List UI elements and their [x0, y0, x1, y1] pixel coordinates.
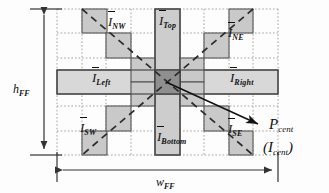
overbar-icon — [159, 10, 166, 11]
label-p-cent: Pcent — [269, 115, 293, 134]
label-i-top: ITop — [159, 12, 176, 30]
block-ne-2 — [204, 33, 229, 58]
label-w-ff-sub: FF — [164, 182, 175, 191]
block-sw-2 — [106, 106, 131, 131]
label-i-se: ISE — [228, 120, 243, 138]
label-i-bottom-symbol: I — [157, 129, 161, 144]
label-i-left-sub: Left — [96, 78, 110, 87]
overbar-icon — [108, 11, 115, 12]
label-i-se-symbol: I — [228, 121, 232, 136]
label-i-left: ILeft — [92, 69, 110, 87]
label-i-ne-symbol: I — [228, 25, 232, 40]
label-i-se-sub: SE — [232, 129, 242, 138]
label-i-bottom-sub: Bottom — [161, 137, 186, 146]
overbar-icon — [92, 67, 99, 68]
block-nw-2 — [106, 33, 131, 58]
label-i-ne: INE — [228, 24, 244, 42]
overbar-icon — [80, 117, 87, 118]
overbar-icon — [228, 22, 235, 23]
overbar-icon — [228, 118, 235, 119]
label-i-right-sub: Right — [234, 78, 253, 87]
label-w-ff-symbol: w — [156, 175, 164, 189]
label-i-ne-sub: NE — [232, 33, 244, 42]
label-h-ff: hFF — [13, 79, 30, 98]
label-i-nw-sub: NW — [112, 22, 125, 31]
label-h-ff-sub: FF — [19, 89, 30, 98]
overbar-icon — [230, 67, 237, 68]
diagram-root: INW INE ITop ILeft IRight ISW IBottom IS… — [0, 0, 329, 193]
label-p-cent-sub: cent — [278, 124, 293, 134]
label-i-sw-sub: SW — [84, 128, 96, 137]
label-i-top-symbol: I — [159, 13, 163, 28]
label-i-cent: (Icent) — [263, 138, 293, 157]
label-i-sw: ISW — [80, 119, 96, 137]
label-p-cent-symbol: P — [269, 116, 278, 132]
label-i-bottom: IBottom — [157, 128, 187, 146]
label-i-sw-symbol: I — [80, 120, 84, 135]
label-i-right-symbol: I — [230, 70, 234, 85]
label-i-cent-close: ) — [288, 139, 293, 155]
overbar-icon — [157, 126, 164, 127]
label-i-right: IRight — [230, 69, 254, 87]
label-i-nw: INW — [108, 13, 126, 31]
label-i-cent-sub: cent — [273, 147, 288, 157]
label-i-left-symbol: I — [92, 70, 96, 85]
label-i-top-sub: Top — [163, 21, 176, 30]
label-i-nw-symbol: I — [108, 14, 112, 29]
label-w-ff: wFF — [156, 172, 175, 191]
